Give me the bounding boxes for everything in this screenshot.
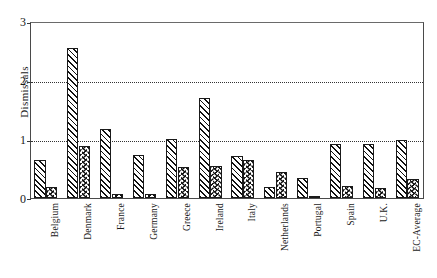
bar-denmark-series-1 <box>67 48 78 198</box>
bar-u-k--series-2 <box>375 188 386 198</box>
bar-ireland-series-1 <box>199 98 210 198</box>
x-label-germany: Germany <box>149 203 159 240</box>
bar-spain-series-2 <box>342 186 353 198</box>
bar-greece-series-1 <box>166 139 177 198</box>
bar-france-series-2 <box>112 194 123 198</box>
bar-ec-average-series-1 <box>396 140 407 198</box>
y-tick-label-3: 3 <box>12 16 26 28</box>
x-label-u-k-: U.K. <box>379 203 389 222</box>
bar-netherlands-series-2 <box>276 172 287 198</box>
x-label-greece: Greece <box>182 203 192 231</box>
bar-u-k--series-1 <box>363 144 374 198</box>
x-label-netherlands: Netherlands <box>280 203 290 251</box>
x-label-italy: Italy <box>247 203 257 221</box>
bar-group <box>31 23 64 198</box>
bar-group <box>261 23 294 198</box>
x-label-belgium: Belgium <box>50 203 60 237</box>
y-tick-label-1: 1 <box>12 134 26 146</box>
bar-group <box>130 23 163 198</box>
x-label-ec-average: EC-Average <box>412 203 422 252</box>
bar-chart-figure: Dismissals 3 2 1 0 BelgiumDenmarkFranceG… <box>0 0 437 278</box>
bar-france-series-1 <box>100 129 111 198</box>
bar-group <box>392 23 425 198</box>
x-label-ireland: Ireland <box>215 203 225 231</box>
bar-denmark-series-2 <box>79 146 90 198</box>
bar-netherlands-series-1 <box>264 187 275 198</box>
bar-group <box>64 23 97 198</box>
y-tick-mark-0 <box>27 199 31 200</box>
bar-group <box>162 23 195 198</box>
bar-germany-series-2 <box>145 194 156 198</box>
bar-greece-series-2 <box>178 167 189 198</box>
bar-group <box>359 23 392 198</box>
bar-belgium-series-1 <box>34 160 45 198</box>
bar-group <box>327 23 360 198</box>
bar-group <box>294 23 327 198</box>
x-label-spain: Spain <box>346 203 356 226</box>
x-label-france: France <box>116 203 126 230</box>
y-tick-label-2: 2 <box>12 75 26 87</box>
bar-portugal-series-2 <box>309 196 320 198</box>
bar-group <box>228 23 261 198</box>
bar-belgium-series-2 <box>46 187 57 198</box>
y-axis-tick-labels: 3 2 1 0 <box>8 0 26 278</box>
bar-spain-series-1 <box>330 144 341 198</box>
bar-italy-series-1 <box>231 156 242 198</box>
bar-group <box>97 23 130 198</box>
bar-germany-series-1 <box>133 155 144 198</box>
bar-ec-average-series-2 <box>407 179 418 198</box>
x-label-denmark: Denmark <box>83 203 93 240</box>
x-label-portugal: Portugal <box>313 203 323 237</box>
bar-portugal-series-1 <box>297 178 308 198</box>
bar-ireland-series-2 <box>210 166 221 198</box>
bar-group <box>195 23 228 198</box>
y-tick-label-0: 0 <box>12 193 26 205</box>
bar-series-container <box>31 23 423 198</box>
x-axis-category-labels: BelgiumDenmarkFranceGermanyGreeceIreland… <box>30 203 424 278</box>
plot-area <box>30 22 424 199</box>
bar-italy-series-2 <box>243 160 254 198</box>
